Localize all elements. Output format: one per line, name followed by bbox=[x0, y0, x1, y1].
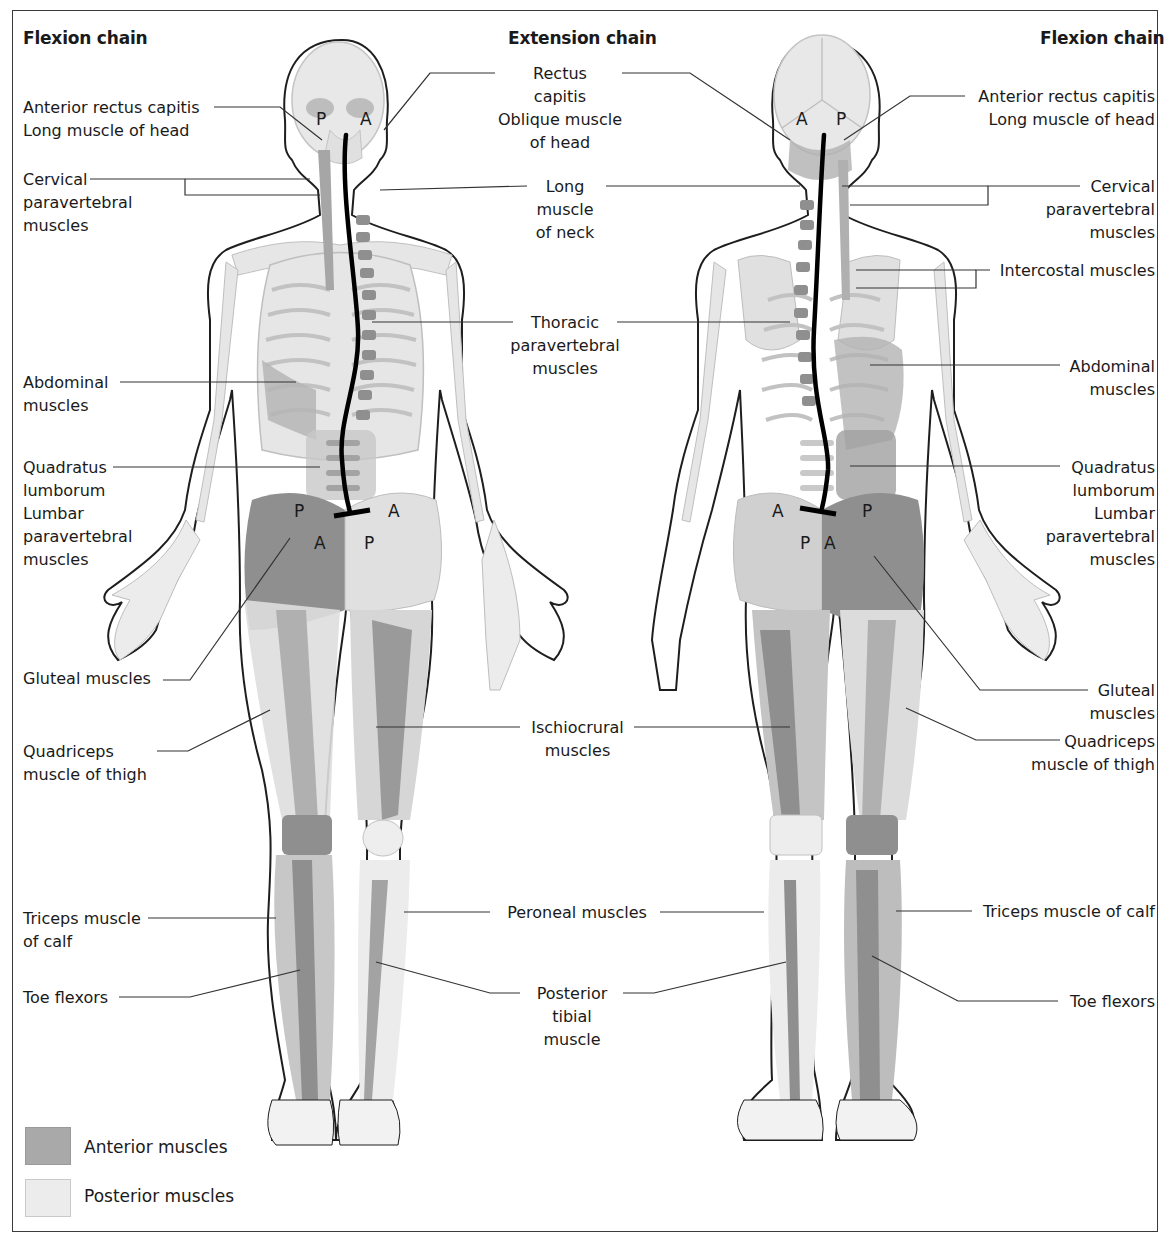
marker-p-sacrum-back: P bbox=[800, 532, 810, 555]
label-toe-flexors-right: Toe flexors bbox=[1070, 990, 1155, 1013]
label-triceps-calf-left: Triceps muscle of calf bbox=[23, 907, 141, 953]
marker-a-pelvis-back: A bbox=[772, 500, 784, 523]
label-ischiocrural: Ischiocrural muscles bbox=[515, 716, 640, 762]
marker-p-head-front: P bbox=[316, 108, 326, 131]
marker-p-sacrum-front: P bbox=[364, 532, 374, 555]
label-cervical-paravertebral-right: Cervical paravertebral muscles bbox=[1046, 175, 1155, 244]
label-thoracic-paravertebral: Thoracic paravertebral muscles bbox=[510, 311, 620, 380]
back-figure bbox=[652, 35, 1060, 1140]
marker-a-head-front: A bbox=[360, 108, 372, 131]
marker-a-pelvis-front: A bbox=[388, 500, 400, 523]
legend-swatch-anterior bbox=[25, 1127, 71, 1165]
label-toe-flexors-left: Toe flexors bbox=[23, 986, 108, 1009]
label-quadriceps-left: Quadriceps muscle of thigh bbox=[23, 740, 147, 786]
label-anterior-rectus-capitis-left: Anterior rectus capitis Long muscle of h… bbox=[23, 96, 200, 142]
marker-a-head-back: A bbox=[796, 108, 808, 131]
label-rectus-capitis: Rectus capitis Oblique muscle of head bbox=[495, 62, 625, 154]
label-quadratus-lumborum-left: Quadratus lumborum Lumbar paravertebral … bbox=[23, 456, 132, 571]
label-quadriceps-right: Quadriceps muscle of thigh bbox=[1031, 730, 1155, 776]
label-triceps-calf-right: Triceps muscle of calf bbox=[983, 900, 1155, 923]
marker-a-sacrum-back: A bbox=[824, 532, 836, 555]
marker-a-sacrum-front: A bbox=[314, 532, 326, 555]
marker-p-head-back: P bbox=[836, 108, 846, 131]
label-long-muscle-neck: Long muscle of neck bbox=[520, 175, 610, 244]
legend-label-anterior: Anterior muscles bbox=[84, 1137, 228, 1157]
label-quadratus-lumborum-right: Quadratus lumborum Lumbar paravertebral … bbox=[1046, 456, 1155, 571]
label-abdominal-left: Abdominal muscles bbox=[23, 371, 108, 417]
marker-p-pelvis-front: P bbox=[294, 500, 304, 523]
legend-swatch-posterior bbox=[25, 1179, 71, 1217]
label-peroneal: Peroneal muscles bbox=[497, 901, 657, 924]
label-cervical-paravertebral-left: Cervical paravertebral muscles bbox=[23, 168, 132, 237]
label-gluteal-left: Gluteal muscles bbox=[23, 667, 151, 690]
legend-label-posterior: Posterior muscles bbox=[84, 1186, 234, 1206]
label-intercostal-right: Intercostal muscles bbox=[1000, 259, 1155, 282]
front-figure bbox=[104, 40, 567, 1145]
label-gluteal-right: Gluteal muscles bbox=[1090, 679, 1155, 725]
label-posterior-tibial: Posterior tibial muscle bbox=[520, 982, 624, 1051]
label-abdominal-right: Abdominal muscles bbox=[1070, 355, 1155, 401]
label-anterior-rectus-capitis-right: Anterior rectus capitis Long muscle of h… bbox=[978, 85, 1155, 131]
marker-p-pelvis-back: P bbox=[862, 500, 872, 523]
